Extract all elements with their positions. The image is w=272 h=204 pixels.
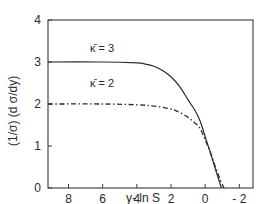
x-tick-label: - 2 xyxy=(232,192,246,204)
y-tick-label: 3 xyxy=(34,55,41,69)
series-lines xyxy=(48,62,224,188)
curve-label-kappa-2: κ̄ = 2 xyxy=(90,77,114,89)
x-tick-label: 8 xyxy=(65,192,72,204)
series-kappa-3-line xyxy=(48,62,221,188)
y-tick-label: 4 xyxy=(34,13,41,27)
y-tick-label: 0 xyxy=(34,181,41,195)
y-tick-label: 1 xyxy=(34,139,41,153)
x-tick-label: 2 xyxy=(168,192,175,204)
y-tick-label: 2 xyxy=(34,97,41,111)
x-tick-label: 0 xyxy=(202,192,209,204)
x-axis-title: y- ln S xyxy=(126,191,160,204)
curve-label-kappa-3: κ̄ = 3 xyxy=(90,42,114,54)
x-tick-label: 6 xyxy=(99,192,106,204)
chart: 01234 86420- 2 κ̄ = 3 κ̄ = 2 y- ln S (1/… xyxy=(0,0,272,204)
y-axis-title: (1/σ) (d σ/dy) xyxy=(6,76,20,146)
